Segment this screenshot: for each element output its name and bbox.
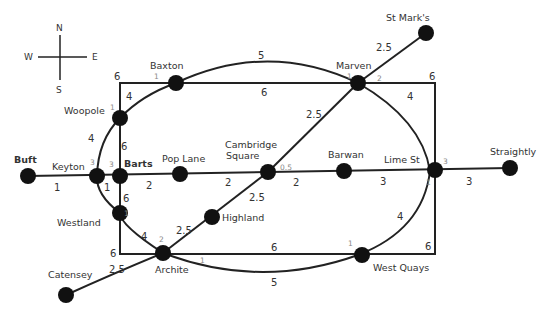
station-buft[interactable] xyxy=(20,168,36,184)
station-cambridge-square[interactable] xyxy=(260,164,276,180)
weight-baxton-marven-rect: 6 xyxy=(261,87,267,98)
weight-rect-topright: 6 xyxy=(429,71,435,82)
label-lime-st: Lime St xyxy=(384,154,420,165)
weight-rect-bottomright: 6 xyxy=(425,241,431,252)
network-diagram: N S E W St Mark's Baxton Marven Woopole … xyxy=(0,0,553,321)
station-highland[interactable] xyxy=(204,209,220,225)
label-square: Square xyxy=(226,150,260,161)
station-archite[interactable] xyxy=(155,245,171,261)
label-west-quays: West Quays xyxy=(373,262,429,273)
label-buft: Buft xyxy=(14,154,37,165)
weight-woopole-barts: 6 xyxy=(121,141,127,152)
label-baxton: Baxton xyxy=(150,60,184,71)
station-marven[interactable] xyxy=(350,75,366,91)
small-lime-2: 1 xyxy=(426,178,431,187)
weight-highland-archite: 2.5 xyxy=(176,225,192,236)
arc-westquays-archite xyxy=(163,253,358,272)
station-straightly[interactable] xyxy=(502,160,518,176)
small-archite-2: 1 xyxy=(200,256,205,265)
weight-barwan-lime: 3 xyxy=(380,176,386,187)
compass: N S E W xyxy=(24,23,98,95)
line-marven-stmarks xyxy=(358,33,426,83)
label-woopole: Woopole xyxy=(64,105,105,116)
compass-east: E xyxy=(92,52,98,62)
label-marven: Marven xyxy=(336,60,371,71)
label-highland: Highland xyxy=(222,212,264,223)
weight-catensey-archite: 2.5 xyxy=(109,264,125,275)
label-barwan: Barwan xyxy=(328,149,364,160)
arc-lime-westquays xyxy=(358,171,430,255)
label-catensey: Catensey xyxy=(48,269,93,280)
weight-keyton-woopole: 4 xyxy=(88,133,94,144)
station-lime-st[interactable] xyxy=(427,162,443,178)
small-baxton: 1 xyxy=(154,72,159,81)
station-barts[interactable] xyxy=(112,168,128,184)
station-west-quays[interactable] xyxy=(354,247,370,263)
label-st-marks: St Mark's xyxy=(386,12,430,23)
weight-lime-straightly: 3 xyxy=(466,176,472,187)
weight-westland-archite: 4 xyxy=(141,231,147,242)
weight-cambridge-marven: 2.5 xyxy=(306,109,322,120)
weight-cambridge-barwan: 2 xyxy=(293,177,299,188)
weight-rect-topleft: 6 xyxy=(114,71,120,82)
label-cambridge: Cambridge xyxy=(225,139,277,150)
label-archite: Archite xyxy=(155,264,189,275)
small-cambridge: 0.5 xyxy=(280,163,292,172)
weight-barts-pop: 2 xyxy=(146,180,152,191)
weight-pop-cambridge: 2 xyxy=(225,177,231,188)
weight-cambridge-highland: 2.5 xyxy=(249,192,265,203)
small-westland: 1 xyxy=(124,209,129,218)
station-pop-lane[interactable] xyxy=(172,166,188,182)
station-barwan[interactable] xyxy=(336,163,352,179)
label-westland: Westland xyxy=(57,217,101,228)
small-keyton: 3 xyxy=(90,158,95,167)
label-straightly: Straightly xyxy=(490,146,537,157)
small-westquays: 1 xyxy=(348,239,353,248)
station-woopole[interactable] xyxy=(112,110,128,126)
rectangle-line xyxy=(120,83,435,254)
weight-marven-lime: 4 xyxy=(407,91,413,102)
station-keyton[interactable] xyxy=(89,168,105,184)
weight-keyton-barts: 1 xyxy=(104,182,110,193)
small-barts: 3 xyxy=(109,160,114,169)
compass-west: W xyxy=(24,52,33,62)
small-marven-2: 2 xyxy=(377,74,382,83)
weight-archite-westquays-rect: 6 xyxy=(271,242,277,253)
small-lime-1: 3 xyxy=(443,157,448,166)
small-woopole: 1 xyxy=(110,103,115,112)
label-barts: Barts xyxy=(124,158,153,169)
station-baxton[interactable] xyxy=(168,75,184,91)
arc-baxton-marven xyxy=(176,62,358,84)
station-st-marks[interactable] xyxy=(418,25,434,41)
compass-south: S xyxy=(56,85,62,95)
label-pop-lane: Pop Lane xyxy=(162,153,205,164)
weight-buft-keyton: 1 xyxy=(54,182,60,193)
weight-marven-stmarks: 2.5 xyxy=(376,42,392,53)
weight-woopole-baxton: 4 xyxy=(126,91,132,102)
weight-baxton-marven-arc: 5 xyxy=(258,50,264,61)
weight-rect-bottomleft: 6 xyxy=(110,248,116,259)
weight-westquays-lime: 4 xyxy=(397,211,403,222)
small-archite-1: 2 xyxy=(159,235,164,244)
label-keyton: Keyton xyxy=(52,161,85,172)
compass-north: N xyxy=(56,23,63,33)
weight-archite-westquays-arc: 5 xyxy=(271,277,277,288)
weight-barts-westland: 6 xyxy=(123,193,129,204)
station-catensey[interactable] xyxy=(58,287,74,303)
small-marven-1: 1 xyxy=(347,72,352,81)
